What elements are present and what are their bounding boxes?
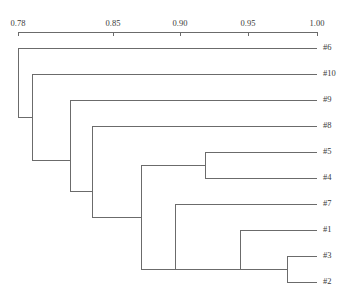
axis-group: 0.780.850.900.951.00	[11, 18, 325, 36]
leaf-label-n2: #2	[323, 276, 332, 286]
axis-tick-label-2: 0.90	[173, 18, 188, 28]
dendrogram-figure: 0.780.850.900.951.00 #6#10#9#8#5#4#7#1#3…	[0, 0, 354, 298]
axis-tick-label-1: 0.85	[106, 18, 121, 28]
axis-tick-label-3: 0.95	[241, 18, 256, 28]
leaf-label-n7: #7	[323, 198, 332, 208]
leaf-label-n6: #6	[323, 42, 332, 52]
leaf-label-n4: #4	[323, 172, 332, 182]
dendrogram-canvas: 0.780.850.900.951.00 #6#10#9#8#5#4#7#1#3…	[0, 0, 354, 298]
axis-tick-label-0: 0.78	[11, 18, 26, 28]
leaf-label-n8: #8	[323, 120, 332, 130]
leaf-label-n9: #9	[323, 94, 332, 104]
leaf-label-n5: #5	[323, 146, 332, 156]
tree-group	[18, 48, 317, 282]
axis-tick-label-4: 1.00	[310, 18, 325, 28]
leaf-label-n1: #1	[323, 224, 332, 234]
leaf-label-n3: #3	[323, 250, 332, 260]
leaf-label-group: #6#10#9#8#5#4#7#1#3#2	[323, 42, 336, 286]
leaf-label-n10: #10	[323, 68, 336, 78]
